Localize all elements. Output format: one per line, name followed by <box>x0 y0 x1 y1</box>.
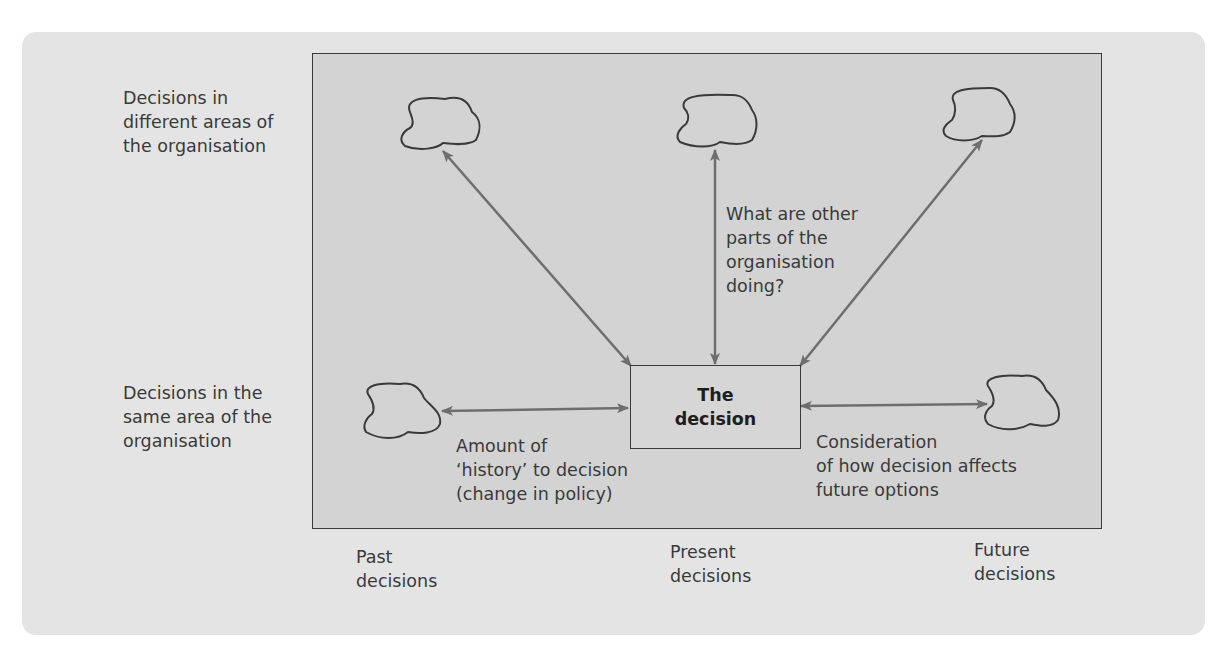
column-label-past: Past decisions <box>356 545 437 593</box>
column-label-future: Future decisions <box>974 538 1055 586</box>
arrow-left <box>442 408 628 411</box>
arrow-right <box>801 404 987 406</box>
annotation-future-options: Consideration of how decision affects fu… <box>816 430 1017 502</box>
left-cloud <box>364 383 440 438</box>
column-label-present: Present decisions <box>670 540 751 588</box>
right-cloud <box>985 375 1059 429</box>
top-right-cloud <box>944 88 1015 141</box>
annotation-other-parts: What are other parts of the organisation… <box>726 202 858 298</box>
arrow-top-left <box>443 151 631 366</box>
top-center-cloud <box>678 95 757 147</box>
row-label-different-areas: Decisions in different areas of the orga… <box>123 86 273 158</box>
row-label-same-area: Decisions in the same area of the organi… <box>123 381 272 453</box>
the-decision-label: The decision <box>675 383 757 431</box>
the-decision-box: The decision <box>630 365 801 449</box>
annotation-history: Amount of ‘history’ to decision (change … <box>456 434 628 506</box>
top-left-cloud <box>401 98 479 149</box>
